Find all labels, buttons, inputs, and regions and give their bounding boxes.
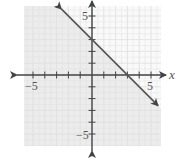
x-axis-label: x	[168, 67, 175, 82]
inequality-graph: −5 5 5 −5 x	[0, 0, 184, 167]
y-tick-label-neg5: −5	[76, 128, 89, 142]
x-tick-label-5: 5	[147, 79, 153, 93]
y-tick-label-5: 5	[82, 9, 88, 23]
x-tick-label-neg5: −5	[25, 79, 38, 93]
